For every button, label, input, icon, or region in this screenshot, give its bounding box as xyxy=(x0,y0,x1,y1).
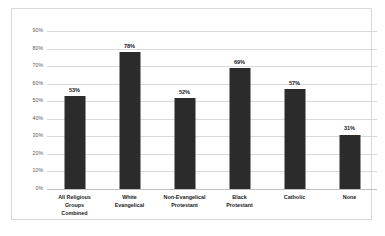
category-label-line: White xyxy=(99,194,161,202)
ytick-label-90: 90% xyxy=(33,28,43,33)
bar-value-none: 31% xyxy=(344,126,355,132)
bar-catholic[interactable] xyxy=(284,89,305,189)
category-label-line: Catholic xyxy=(264,194,326,202)
chart-frame: 90% 80% 70% 60% 50% 40% 30% 20% 10% 0% 5… xyxy=(11,8,372,220)
bar-slot-black-protestant: 69% Black Protestant xyxy=(212,31,267,189)
bar-slot-non-evangelical-protestant: 52% Non-Evangelical Protestant xyxy=(157,31,212,189)
ytick-label-80: 80% xyxy=(33,46,43,51)
bar-none[interactable] xyxy=(339,135,360,189)
category-label-line: Black xyxy=(209,194,271,202)
ytick-label-70: 70% xyxy=(33,64,43,69)
category-label-line: Groups xyxy=(44,202,106,210)
bar-value-catholic: 57% xyxy=(289,81,300,87)
bar-all-religious-groups-combined[interactable] xyxy=(64,96,85,189)
ytick-label-10: 10% xyxy=(33,169,43,174)
bar-slot-all-religious-groups-combined: 53% All Religious Groups Combined xyxy=(47,31,102,189)
category-label-line: All Religious xyxy=(44,194,106,202)
bar-black-protestant[interactable] xyxy=(229,68,250,189)
ytick-label-40: 40% xyxy=(33,116,43,121)
ytick-label-0: 0% xyxy=(36,186,44,191)
category-label-none: None xyxy=(319,194,381,202)
bar-value-white-evangelical: 78% xyxy=(124,44,135,50)
bar-value-black-protestant: 69% xyxy=(234,60,245,66)
ytick-label-20: 20% xyxy=(33,151,43,156)
ytick-label-50: 50% xyxy=(33,99,43,104)
plot-area: 90% 80% 70% 60% 50% 40% 30% 20% 10% 0% 5… xyxy=(47,31,377,189)
bar-non-evangelical-protestant[interactable] xyxy=(174,98,195,189)
category-label-all-religious-groups-combined: All Religious Groups Combined xyxy=(44,194,106,217)
category-label-line: Combined xyxy=(44,210,106,218)
category-label-line: Non-Evangelical xyxy=(154,194,216,202)
category-label-line: Protestant xyxy=(209,202,271,210)
category-label-black-protestant: Black Protestant xyxy=(209,194,271,210)
bar-white-evangelical[interactable] xyxy=(119,52,140,189)
axis-baseline xyxy=(47,189,377,190)
category-label-line: None xyxy=(319,194,381,202)
category-label-white-evangelical: White Evangelical xyxy=(99,194,161,210)
bar-value-non-evangelical-protestant: 52% xyxy=(179,90,190,96)
ytick-label-30: 30% xyxy=(33,134,43,139)
bar-slot-catholic: 57% Catholic xyxy=(267,31,322,189)
bar-slot-none: 31% None xyxy=(322,31,377,189)
category-label-line: Protestant xyxy=(154,202,216,210)
category-label-non-evangelical-protestant: Non-Evangelical Protestant xyxy=(154,194,216,210)
bar-slot-white-evangelical: 78% White Evangelical xyxy=(102,31,157,189)
category-label-catholic: Catholic xyxy=(264,194,326,202)
bar-value-all-religious-groups-combined: 53% xyxy=(69,88,80,94)
ytick-label-60: 60% xyxy=(33,81,43,86)
category-label-line: Evangelical xyxy=(99,202,161,210)
